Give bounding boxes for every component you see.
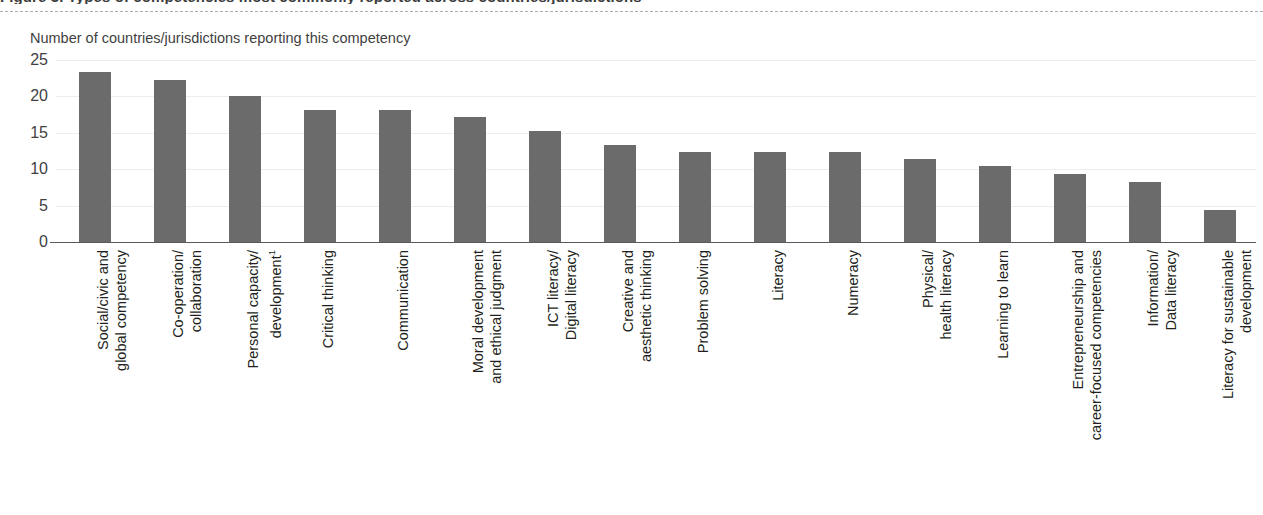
x-axis-category-label: Personal capacity/development1	[236, 246, 254, 514]
x-axis-category-label: Social/civic andglobal competency	[86, 246, 104, 514]
category-label-line1: Critical thinking	[320, 250, 338, 348]
x-axis-category-label: Numeracy	[836, 246, 854, 514]
category-label-line1: Problem solving	[695, 250, 713, 353]
bar	[1204, 210, 1236, 242]
bar	[454, 117, 486, 242]
y-tick-label: 10	[8, 161, 48, 177]
x-axis-category-label: Learning to learn	[986, 246, 1004, 514]
category-label-line1: Entrepreneurship and	[1070, 250, 1088, 440]
bar-chart: Number of countries/jurisdictions report…	[0, 0, 1263, 515]
x-axis-category-label: Physical/health literacy	[911, 246, 929, 514]
category-label-line2: development	[1237, 250, 1255, 399]
category-label-line2: Digital literacy	[562, 250, 580, 340]
bar	[379, 110, 411, 242]
x-axis-category-label: Problem solving	[686, 246, 704, 514]
y-tick-label: 15	[8, 125, 48, 141]
category-label-line2: health literacy	[937, 250, 955, 339]
x-axis-category-label: Co-operation/collaboration	[161, 246, 179, 514]
x-axis-category-label: Entrepreneurship andcareer-focused compe…	[1061, 246, 1079, 514]
category-label-line2: aesthetic thinking	[637, 250, 655, 362]
y-axis-ticks: 2520151050	[0, 60, 48, 242]
bar	[679, 152, 711, 242]
bar	[529, 131, 561, 242]
bar	[754, 152, 786, 242]
bar	[304, 110, 336, 242]
bar	[1054, 174, 1086, 242]
bar	[904, 159, 936, 242]
x-axis-line	[50, 242, 1256, 243]
category-label-line1: Creative and	[620, 250, 638, 362]
category-label-line2: and ethical judgment	[487, 250, 505, 384]
x-axis-category-label: Literacy	[761, 246, 779, 514]
category-label-line2: career-focused competencies	[1087, 250, 1105, 440]
category-label-line1: Literacy	[770, 250, 788, 301]
y-tick-label: 20	[8, 88, 48, 104]
category-label-line1: Communication	[395, 250, 413, 351]
x-axis-category-label: Information/Data literacy	[1136, 246, 1154, 514]
y-tick-label: 5	[8, 198, 48, 214]
category-label-line1: Social/civic and	[95, 250, 113, 371]
category-label-line2: global competency	[112, 250, 130, 371]
x-axis-category-label: Moral developmentand ethical judgment	[461, 246, 479, 514]
category-label-line1: Moral development	[470, 250, 488, 384]
category-label-line2: development1	[262, 250, 284, 368]
category-label-line2: collaboration	[187, 250, 205, 338]
bars-layer	[56, 60, 1256, 242]
category-label-line1: Physical/	[920, 250, 938, 339]
bar	[154, 80, 186, 242]
category-label-line1: Learning to learn	[995, 250, 1013, 359]
bar	[79, 72, 111, 242]
category-label-line1: Literacy for sustainable	[1220, 250, 1238, 399]
y-tick-label: 25	[8, 52, 48, 68]
bar	[829, 152, 861, 242]
x-axis-category-label: Communication	[386, 246, 404, 514]
category-label-line1: Information/	[1145, 250, 1163, 331]
bar	[229, 96, 261, 242]
category-label-line1: Numeracy	[845, 250, 863, 316]
y-tick-label: 0	[8, 234, 48, 250]
bar	[979, 166, 1011, 242]
category-label-line1: ICT literacy/	[545, 250, 563, 340]
category-label-line2: Data literacy	[1162, 250, 1180, 331]
category-label-line1: Personal capacity/	[245, 250, 263, 368]
category-label-line1: Co-operation/	[170, 250, 188, 338]
x-axis-category-label: Creative andaesthetic thinking	[611, 246, 629, 514]
y-axis-title: Number of countries/jurisdictions report…	[30, 30, 410, 46]
x-axis-category-label: Literacy for sustainabledevelopment	[1211, 246, 1229, 514]
bar	[604, 145, 636, 242]
bar	[1129, 182, 1161, 242]
footnote-marker: 1	[265, 250, 276, 255]
x-axis-labels: Social/civic andglobal competencyCo-oper…	[56, 246, 1256, 515]
x-axis-category-label: Critical thinking	[311, 246, 329, 514]
x-axis-category-label: ICT literacy/Digital literacy	[536, 246, 554, 514]
